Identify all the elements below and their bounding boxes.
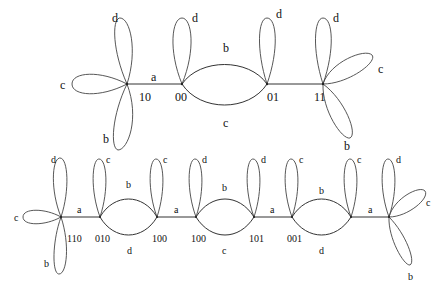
label-loop-110-b: b	[44, 258, 49, 269]
label-loop-100a-c: c	[163, 154, 168, 165]
label-loop-n8-d: d	[396, 154, 401, 165]
label-loop-010-c: c	[106, 154, 111, 165]
label-edge-a-4: a	[368, 204, 373, 215]
loop-110-c	[23, 210, 61, 224]
node-100-a	[156, 216, 158, 218]
label-edge-b-3: b	[319, 185, 324, 196]
node-10	[126, 83, 128, 85]
edge-00-01-b	[182, 65, 267, 85]
label-edge-a-2: a	[174, 204, 179, 215]
loop-n7-c	[344, 159, 357, 217]
label-edge-d-3: d	[319, 245, 324, 256]
label-node-00: 00	[175, 90, 187, 104]
loop-10-b	[113, 84, 132, 150]
label-edge-c-2: c	[222, 245, 227, 256]
loop-00-d	[173, 18, 191, 84]
label-loop-11-d: d	[333, 11, 339, 25]
node-100-b	[195, 216, 197, 218]
label-node-100-b: 100	[191, 233, 206, 244]
loop-10-c	[72, 74, 127, 94]
edge-001-n7-b	[292, 199, 351, 217]
loop-10-d	[115, 18, 133, 84]
node-n7	[350, 216, 352, 218]
label-loop-001-c: c	[299, 154, 304, 165]
label-loop-101-d: d	[261, 154, 266, 165]
loop-001-c	[285, 159, 298, 217]
label-loop-n7-c: c	[357, 154, 362, 165]
loop-11-d	[315, 18, 331, 84]
label-loop-11-b: b	[344, 139, 350, 153]
label-loop-110-c: c	[14, 212, 19, 223]
label-node-110: 110	[67, 233, 82, 244]
label-loop-100b-d: d	[202, 154, 207, 165]
top-graph: d c b a 10 00 d b c d 01 11 d c b	[60, 7, 383, 153]
label-edge-b: b	[223, 41, 229, 55]
node-110	[60, 216, 62, 218]
loop-110-d	[53, 158, 67, 217]
label-edge-d-1: d	[127, 245, 132, 256]
label-loop-10-b: b	[103, 132, 109, 146]
edge-00-01-c	[182, 84, 267, 105]
node-n8	[388, 216, 390, 218]
bottom-graph: d c b c c d d c c d c b a b d a b c a b …	[14, 154, 431, 282]
loop-100a-c	[150, 159, 163, 217]
state-graph-diagram: d c b a 10 00 d b c d 01 11 d c b	[0, 0, 446, 297]
label-node-100-a: 100	[152, 233, 167, 244]
loop-n8-b	[389, 217, 412, 265]
label-edge-a-3: a	[270, 204, 275, 215]
loop-010-c	[93, 159, 106, 217]
loop-101-d	[247, 159, 260, 217]
label-loop-10-d: d	[112, 11, 118, 25]
label-loop-n8-b: b	[408, 271, 413, 282]
node-11	[322, 83, 324, 85]
label-node-01: 01	[267, 90, 279, 104]
label-node-001: 001	[287, 233, 302, 244]
node-010	[99, 216, 101, 218]
loop-01-d	[259, 18, 275, 84]
edge-100-101-b	[196, 199, 254, 217]
label-edge-a: a	[151, 70, 157, 84]
node-01	[266, 83, 268, 85]
label-node-10: 10	[139, 90, 151, 104]
label-node-101: 101	[249, 233, 264, 244]
loop-11-c	[323, 53, 373, 84]
node-00	[181, 83, 183, 85]
label-node-11: 11	[314, 90, 326, 104]
loop-100b-d	[189, 159, 202, 217]
label-loop-n8-c: c	[426, 197, 431, 208]
label-loop-01-d: d	[276, 7, 282, 21]
label-edge-b-1: b	[126, 179, 131, 190]
loop-11-b	[323, 84, 352, 138]
node-101	[253, 216, 255, 218]
edge-010-100-b	[100, 199, 157, 217]
label-loop-00-d: d	[192, 11, 198, 25]
label-loop-11-c: c	[378, 62, 383, 76]
label-loop-110-d: d	[51, 154, 56, 165]
loop-110-b	[54, 217, 67, 274]
label-edge-a-1: a	[77, 204, 82, 215]
node-001	[291, 216, 293, 218]
label-edge-b-2: b	[222, 182, 227, 193]
label-node-010: 010	[95, 233, 110, 244]
label-edge-c: c	[223, 116, 228, 130]
label-loop-10-c: c	[60, 78, 65, 92]
